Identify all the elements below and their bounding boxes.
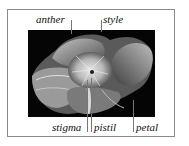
anther-leader-line (71, 20, 72, 34)
style-label: style (103, 13, 123, 25)
petal-leader-line (133, 100, 134, 132)
style-leader-line (101, 20, 102, 32)
petal-label: petal (136, 121, 158, 133)
pistil-label: pistil (94, 121, 116, 133)
anther-label: anther (36, 13, 65, 25)
stigma-label: stigma (52, 121, 81, 133)
pistil-leader-line (91, 78, 92, 132)
stigma-leader-line (87, 80, 88, 132)
